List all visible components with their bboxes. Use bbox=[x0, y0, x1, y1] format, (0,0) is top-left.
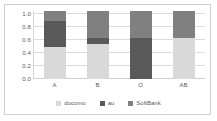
bar-stack[interactable] bbox=[44, 11, 66, 79]
y-axis-tick: 0.6 bbox=[9, 37, 31, 43]
x-axis: A B O AB bbox=[33, 80, 205, 92]
chart-card: 1.0 0.8 0.6 0.4 0.2 0.0 A B O AB docomoa… bbox=[4, 4, 211, 115]
x-axis-tick: AB bbox=[162, 80, 205, 92]
bar-group[interactable] bbox=[77, 11, 120, 79]
x-axis-tick: A bbox=[33, 80, 76, 92]
legend-swatch-icon bbox=[56, 101, 61, 106]
legend-swatch-icon bbox=[128, 101, 133, 106]
plot-wrapper: 1.0 0.8 0.6 0.4 0.2 0.0 A B O AB bbox=[5, 11, 212, 93]
bar-segment[interactable] bbox=[44, 47, 66, 79]
bar-segment[interactable] bbox=[44, 21, 66, 48]
bar-stack[interactable] bbox=[130, 11, 152, 79]
legend-item[interactable]: docomo bbox=[56, 100, 85, 106]
y-axis-tick: 0.4 bbox=[9, 50, 31, 56]
legend-item[interactable]: SoftBank bbox=[128, 100, 160, 106]
bar-segment[interactable] bbox=[130, 38, 152, 79]
legend-label: docomo bbox=[64, 100, 85, 106]
bar-segment[interactable] bbox=[87, 11, 109, 38]
legend-label: au bbox=[108, 100, 115, 106]
y-axis-tick: 0.2 bbox=[9, 63, 31, 69]
bar-segment[interactable] bbox=[130, 11, 152, 38]
legend-item[interactable]: au bbox=[100, 100, 115, 106]
bar-stack[interactable] bbox=[173, 11, 195, 79]
bar-segment[interactable] bbox=[87, 44, 109, 79]
x-axis-tick: O bbox=[119, 80, 162, 92]
x-axis-tick: B bbox=[76, 80, 119, 92]
bar-stack[interactable] bbox=[87, 11, 109, 79]
plot-area bbox=[33, 11, 205, 79]
y-axis: 1.0 0.8 0.6 0.4 0.2 0.0 bbox=[9, 11, 31, 79]
chart-legend: docomoauSoftBank bbox=[5, 97, 212, 109]
bar-group[interactable] bbox=[120, 11, 163, 79]
bar-group[interactable] bbox=[162, 11, 205, 79]
y-axis-tick: 0.8 bbox=[9, 24, 31, 30]
bar-segment[interactable] bbox=[44, 11, 66, 21]
legend-label: SoftBank bbox=[136, 100, 160, 106]
y-axis-tick: 1.0 bbox=[9, 11, 31, 17]
bar-group[interactable] bbox=[34, 11, 77, 79]
legend-swatch-icon bbox=[100, 101, 105, 106]
y-axis-tick: 0.0 bbox=[9, 76, 31, 82]
bar-segment[interactable] bbox=[173, 11, 195, 38]
bar-segment[interactable] bbox=[173, 38, 195, 79]
bar-series-container bbox=[34, 11, 205, 79]
